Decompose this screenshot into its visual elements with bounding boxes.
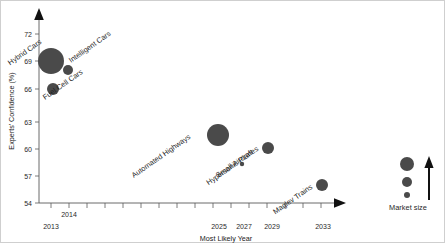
x-tick-label-2025: 2025 xyxy=(211,223,227,230)
y-axis-arrowhead xyxy=(34,8,44,20)
label-maglev-trains: Maglev Trains xyxy=(271,182,314,216)
bubble-hybrid-cars[interactable] xyxy=(38,48,64,74)
legend-bubble-small xyxy=(404,192,410,198)
y-tick-label: 57 xyxy=(24,173,32,180)
x-axis xyxy=(39,198,346,208)
legend-bubble-medium xyxy=(402,177,412,187)
data-series xyxy=(38,48,328,191)
label-intelligent-cars: Intelligent Cars xyxy=(67,29,113,65)
bubble-hypersonic-planes[interactable] xyxy=(262,142,274,154)
bubble-maglev-trains[interactable] xyxy=(316,179,328,191)
x-tick-label-2027: 2027 xyxy=(236,223,252,230)
label-automated-highways: Automated Highways xyxy=(130,132,193,180)
x-axis-arrowhead xyxy=(334,198,346,208)
y-tick-label: 54 xyxy=(24,200,32,207)
legend-arrow-up-icon xyxy=(424,156,433,200)
chart-figure: 54 57 60 63 66 69 72 xyxy=(0,0,445,243)
x-axis-tick-labels: 2013 2014 2025 2027 2029 2033 xyxy=(43,211,331,230)
bubble-chart-canvas: 54 57 60 63 66 69 72 xyxy=(1,1,446,244)
x-tick-label-2014: 2014 xyxy=(61,211,77,218)
x-tick-label-2033: 2033 xyxy=(315,223,331,230)
x-tick-label-2013: 2013 xyxy=(43,223,59,230)
x-tick-label-2029: 2029 xyxy=(264,223,280,230)
legend-bubble-large xyxy=(400,157,414,171)
y-axis-title: Experts' Confidence (%) xyxy=(7,72,16,149)
bubble-automated-highways[interactable] xyxy=(207,124,229,146)
y-tick-label: 63 xyxy=(24,119,32,126)
legend-market-size: Market size xyxy=(389,156,433,212)
x-axis-title: Most Likely Year xyxy=(200,234,253,243)
legend-title: Market size xyxy=(389,203,427,212)
y-tick-label: 66 xyxy=(24,86,32,93)
label-hypersonic-planes: Hypersonic Planes xyxy=(205,144,261,187)
y-tick-label: 72 xyxy=(24,31,32,38)
y-tick-label: 69 xyxy=(24,58,32,65)
y-tick-label: 60 xyxy=(24,146,32,153)
y-axis xyxy=(34,8,44,203)
